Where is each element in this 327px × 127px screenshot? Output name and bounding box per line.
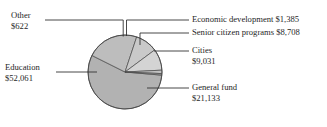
callout-other: Other $622 (11, 10, 31, 31)
callout-education-line2: $52,061 (5, 73, 40, 84)
callout-cities: Cities $9,031 (192, 45, 216, 66)
callout-general-fund-line1: General fund (192, 82, 237, 92)
callout-education-line1: Education (5, 62, 40, 72)
callout-education: Education $52,061 (5, 62, 40, 83)
callout-economic-development-line1: Economic development $1,385 (192, 14, 299, 24)
leader-line-economic-development (127, 20, 190, 36)
callout-cities-line1: Cities (192, 45, 212, 55)
callout-senior-citizen-programs: Senior citizen programs $8,708 (192, 27, 300, 38)
callout-general-fund-line2: $21,133 (192, 93, 237, 104)
callout-cities-line2: $9,031 (192, 56, 216, 67)
callout-economic-development: Economic development $1,385 (192, 14, 299, 25)
callout-senior-citizen-programs-line1: Senior citizen programs $8,708 (192, 27, 300, 37)
callout-other-line1: Other (11, 10, 31, 20)
callout-general-fund: General fund $21,133 (192, 82, 237, 103)
callout-other-line2: $622 (11, 21, 31, 32)
leader-line-other (45, 20, 123, 37)
pie-chart-figure: Other $622 Education $52,061 Economic de… (0, 0, 327, 127)
